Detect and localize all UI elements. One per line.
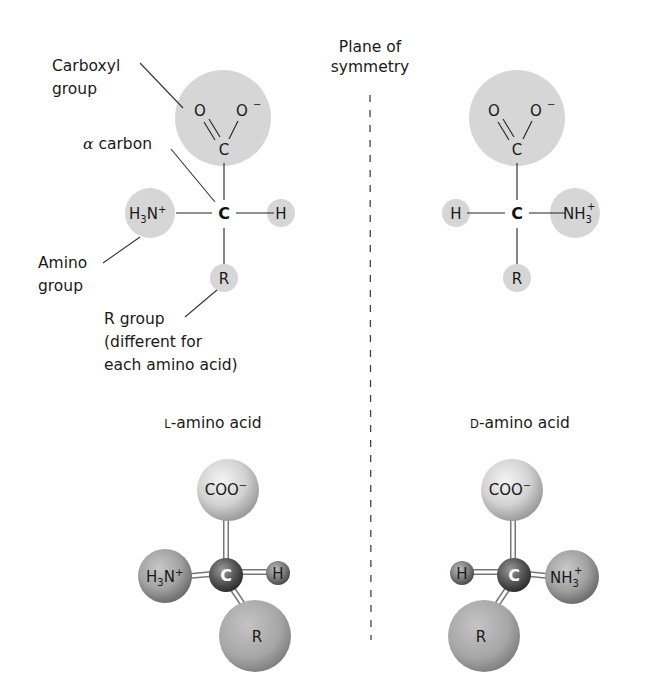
alpha-carbon: C bbox=[511, 204, 523, 223]
amino-label-line2: group bbox=[38, 277, 83, 295]
r-group-label-line2: (different for bbox=[104, 333, 203, 351]
carboxyl-charge: − bbox=[253, 99, 261, 110]
l-amino-acid-structural-formula: O O − C C H3N+ H R bbox=[125, 70, 295, 292]
carboxyl-leader-line bbox=[140, 63, 183, 108]
plane-label-line2: symmetry bbox=[331, 58, 410, 76]
plane-of-symmetry: Plane of symmetry bbox=[331, 38, 410, 640]
amino-acid-stereochemistry-figure: Plane of symmetry O O − C C H3N+ H R Car… bbox=[0, 0, 647, 691]
carboxyl-carbon: C bbox=[219, 141, 229, 159]
r-group-label-line3: each amino acid) bbox=[104, 356, 238, 374]
carboxyl-carbon: C bbox=[512, 141, 522, 159]
carboxyl-label-line1: Carboxyl bbox=[52, 57, 120, 75]
d-amino-acid-title: D-amino acid bbox=[470, 414, 570, 432]
r-label: R bbox=[476, 628, 486, 646]
carboxyl-oxygen-double: O bbox=[488, 102, 500, 120]
plane-label-line1: Plane of bbox=[339, 38, 402, 56]
carboxyl-label-line2: group bbox=[52, 80, 97, 98]
r-group-leader-line bbox=[185, 290, 217, 317]
hydrogen-atom: H bbox=[275, 205, 286, 223]
alpha-carbon-label: C bbox=[508, 566, 520, 585]
carboxyl-oxygen-single: O bbox=[530, 102, 542, 120]
carboxyl-oxygen-single: O bbox=[236, 102, 248, 120]
symmetry-dashed-line bbox=[370, 95, 371, 640]
r-group-atom: R bbox=[512, 270, 522, 288]
carboxyl-oxygen-double: O bbox=[194, 102, 206, 120]
amino-leader-line bbox=[103, 237, 140, 263]
hydrogen-atom: H bbox=[450, 205, 461, 223]
carboxyl-charge: − bbox=[547, 99, 555, 110]
alpha-carbon: C bbox=[218, 204, 230, 223]
l-amino-acid-title: L-amino acid bbox=[164, 414, 261, 432]
alpha-carbon-label: αcarbon bbox=[83, 135, 152, 153]
amino-label-line1: Amino bbox=[38, 254, 87, 272]
r-group-label-line1: R group bbox=[104, 310, 165, 328]
l-amino-acid-ball-and-stick-model: COO− H3N+ R H C bbox=[138, 459, 291, 672]
d-amino-acid-structural-formula: O O − C C H NH3+ R bbox=[442, 70, 600, 292]
hydrogen-label: H bbox=[272, 565, 283, 583]
r-label: R bbox=[252, 628, 262, 646]
alpha-carbon-label: C bbox=[220, 566, 232, 585]
hydrogen-label: H bbox=[456, 565, 467, 583]
d-amino-acid-ball-and-stick-model: COO− NH3+ R H C bbox=[448, 459, 599, 672]
r-group-atom: R bbox=[219, 270, 229, 288]
